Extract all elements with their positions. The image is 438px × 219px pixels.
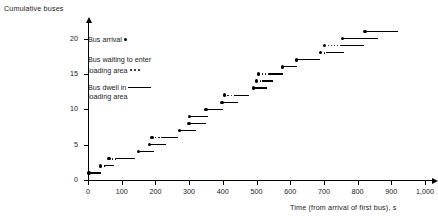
legend-label-dwell-line2: loading area [88,93,128,102]
x-tick-label: 800 [343,187,373,196]
x-tick-label: 400 [208,187,238,196]
dwell-solid-segment [161,137,178,138]
x-tick-mark [122,181,123,185]
waiting-dotted-segment [328,45,342,46]
dwell-solid-segment [365,31,398,32]
dot-marker-icon [124,38,127,41]
dwell-solid-segment [262,80,273,81]
bus-arrival-point [252,86,255,89]
x-tick-mark [88,181,89,185]
y-tick-label: 0 [56,175,78,184]
bus-arrival-point [363,30,366,33]
bus-arrival-point [220,101,223,104]
bus-arrival-point [323,44,326,47]
x-tick-mark [155,181,156,185]
x-tick-label: 100 [107,187,137,196]
x-axis-arrow-icon [432,178,438,184]
y-tick-label: 10 [56,104,78,113]
x-tick-label: 700 [309,187,339,196]
x-axis-title: Time (from arrival of first bus), s [290,203,396,212]
dwell-solid-segment [104,165,114,166]
bus-arrival-point [87,171,90,174]
bus-arrival-point [319,51,322,54]
x-tick-mark [189,181,190,185]
chart-canvas: Cumulative buses Time (from arrival of f… [0,0,438,219]
bus-arrival-point [204,108,207,111]
bus-arrival-point [178,129,181,132]
y-tick-mark [84,145,88,146]
bus-arrival-point [150,136,153,139]
dotted-line-marker-icon [130,65,143,74]
legend-item-arrival: Bus arrival [88,36,127,45]
y-tick-label: 15 [56,69,78,78]
x-tick-mark [358,181,359,185]
bus-arrival-point [187,122,190,125]
x-tick-label: 300 [174,187,204,196]
x-tick-mark [223,181,224,185]
bus-arrival-point [148,143,151,146]
dwell-solid-segment [139,151,155,152]
x-tick-label: 0 [73,187,103,196]
y-axis-title: Cumulative buses [4,4,64,13]
bus-arrival-point [137,150,140,153]
dwell-solid-segment [189,123,206,124]
bus-arrival-point [99,164,102,167]
bus-arrival-point [281,65,284,68]
bus-arrival-point [107,157,110,160]
dwell-solid-segment [206,109,223,110]
dwell-solid-segment [296,59,320,60]
y-tick-label: 5 [56,140,78,149]
dwell-solid-segment [89,172,101,173]
bus-arrival-point [295,58,298,61]
dwell-solid-segment [222,102,238,103]
x-axis-line [88,180,433,181]
dwell-solid-segment [234,95,250,96]
x-tick-label: 600 [275,187,305,196]
x-tick-label: 200 [140,187,170,196]
dwell-solid-segment [326,52,344,53]
legend-label-waiting-line2: loading area [88,67,128,76]
dwell-solid-segment [149,144,166,145]
x-tick-mark [391,181,392,185]
bus-arrival-point [255,79,258,82]
bus-arrival-point [341,37,344,40]
y-axis-line [88,22,89,181]
dwell-solid-segment [190,116,208,117]
bus-arrival-point [188,115,191,118]
y-tick-label: 20 [56,34,78,43]
dwell-solid-segment [341,45,364,46]
dwell-solid-segment [269,73,283,74]
dwell-solid-segment [343,38,378,39]
x-tick-mark [425,181,426,185]
x-tick-label: 1,000 [410,187,438,196]
waiting-dotted-segment [262,73,270,74]
legend-label-arrival: Bus arrival [88,36,122,45]
legend-label-waiting-line1: Bus waiting to enter [88,56,151,65]
bus-arrival-point [257,72,260,75]
legend-item-dwell: Bus dwell in loading area [88,84,151,101]
legend-item-waiting: Bus waiting to enter loading area [88,56,151,75]
x-tick-mark [290,181,291,185]
x-tick-label: 500 [242,187,272,196]
dwell-solid-segment [180,130,196,131]
dwell-solid-segment [116,158,135,159]
y-tick-mark [84,109,88,110]
x-tick-mark [257,181,258,185]
solid-line-marker-icon [128,87,151,88]
dwell-solid-segment [283,66,297,67]
x-tick-label: 900 [376,187,406,196]
bus-arrival-point [223,93,226,96]
x-tick-mark [324,181,325,185]
y-axis-arrow-icon [86,17,92,23]
dwell-solid-segment [254,87,267,88]
